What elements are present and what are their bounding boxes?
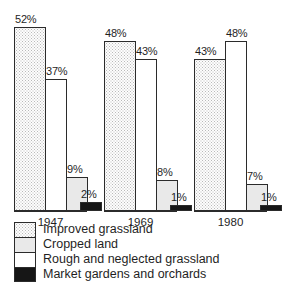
bar-value-label: 2% [81, 189, 97, 200]
bar-value-label: 1% [261, 192, 277, 203]
legend-item-rough-neglected-grassland: Rough and neglected grassland [14, 252, 284, 267]
bar-group-1969: 48% 43% 8% 1% 1969 [104, 6, 177, 212]
bar-value-label: 48% [105, 28, 126, 39]
legend-label: Cropped land [43, 237, 118, 252]
group-baseline [14, 211, 87, 212]
legend-item-improved-grassland: Improved grassland [14, 222, 284, 237]
bar-group-1947: 52% 37% 9% 2% 1947 [14, 6, 87, 212]
bar-rough-neglected-grassland [225, 41, 247, 211]
group-baseline [104, 211, 177, 212]
bar-value-label: 48% [226, 28, 247, 39]
legend-label: Rough and neglected grassland [43, 252, 220, 267]
bar-value-label: 43% [195, 46, 216, 57]
bar-rough-neglected-grassland [45, 79, 67, 211]
legend-swatch-dotted-icon [14, 222, 36, 237]
bar-chart: 52% 37% 9% 2% 1947 48% 43% 8% 1% 1969 [0, 0, 294, 291]
bar-value-label: 8% [157, 167, 173, 178]
bar-rough-neglected-grassland [135, 59, 157, 211]
bar-value-label: 1% [171, 192, 187, 203]
legend-swatch-black-icon [14, 267, 36, 282]
legend-item-market-gardens-orchards: Market gardens and orchards [14, 267, 284, 282]
group-baseline [194, 211, 267, 212]
legend-swatch-light-gray-icon [14, 237, 36, 252]
bar-value-label: 43% [136, 46, 157, 57]
bar-group-1980: 43% 48% 7% 1% 1980 [194, 6, 267, 212]
bar-improved-grassland [104, 41, 136, 211]
bar-value-label: 37% [46, 66, 67, 77]
bar-improved-grassland [194, 59, 226, 211]
bar-value-label: 7% [247, 171, 263, 182]
bar-market-gardens-orchards [260, 205, 282, 211]
chart-legend: Improved grassland Cropped land Rough an… [14, 222, 284, 282]
bar-value-label: 9% [67, 164, 83, 175]
legend-item-cropped-land: Cropped land [14, 237, 284, 252]
bar-market-gardens-orchards [170, 205, 192, 211]
bar-improved-grassland [14, 27, 46, 211]
bar-market-gardens-orchards [80, 202, 102, 211]
bar-value-label: 52% [15, 14, 36, 25]
legend-label: Improved grassland [43, 222, 153, 237]
plot-area: 52% 37% 9% 2% 1947 48% 43% 8% 1% 1969 [0, 0, 294, 212]
legend-label: Market gardens and orchards [43, 267, 206, 282]
legend-swatch-white-icon [14, 252, 36, 267]
